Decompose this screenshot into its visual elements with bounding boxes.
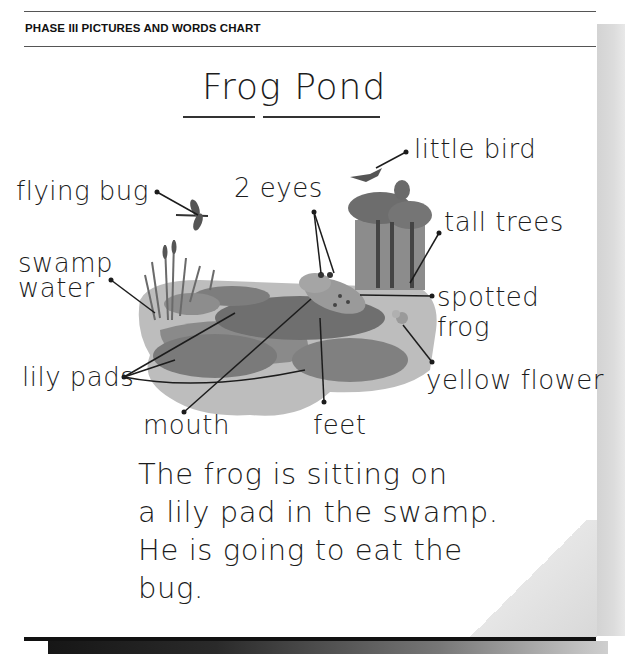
- label-mouth: mouth: [143, 410, 230, 440]
- sentence-line: He is going to eat the: [138, 531, 499, 569]
- label-water: water: [18, 273, 95, 303]
- label-yellow-flower: yellow flower: [426, 365, 604, 395]
- label-lily-pads: lily pads: [22, 362, 134, 392]
- label-little-bird: little bird: [414, 134, 536, 164]
- label-flying-bug: flying bug: [16, 176, 149, 206]
- sentence-line: bug.: [138, 569, 499, 607]
- label-spotted: spotted: [437, 282, 539, 312]
- sentence-line: a lily pad in the swamp.: [138, 493, 499, 531]
- tall-trees-icon: [348, 180, 432, 290]
- dragonfly-icon: [176, 198, 208, 232]
- label-tall-trees: tall trees: [444, 207, 564, 237]
- label-2-eyes: 2 eyes: [234, 173, 323, 203]
- sentence-line: The frog is sitting on: [138, 455, 499, 493]
- pond-icon: [139, 280, 437, 416]
- bottom-shadow: [48, 641, 608, 654]
- label-frog: frog: [437, 312, 490, 342]
- little-bird-icon: [350, 168, 382, 182]
- chart-sentence: The frog is sitting ona lily pad in the …: [138, 455, 499, 607]
- label-feet: feet: [313, 410, 366, 440]
